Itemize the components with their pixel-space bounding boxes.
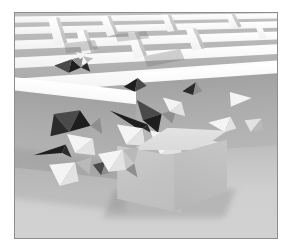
rendered-scene [15,13,277,238]
figure-root: Grayscale 3D render: an overhead perspec… [0,0,295,251]
shard-front-overlay [88,139,156,198]
shard-right-edge-svg [240,114,269,137]
shard-right-far-svg [225,87,256,112]
figure-frame [14,12,278,239]
shard-cluster-upper-left [46,47,104,83]
shard-cluster-upper-left-svg [46,47,104,83]
shard-upper-mid-small-svg [120,72,151,97]
shard-front-overlay-svg [88,139,156,198]
shard-upper-mid-small [120,72,151,97]
shard-right-edge [240,114,269,137]
shard-right-far [225,87,256,112]
